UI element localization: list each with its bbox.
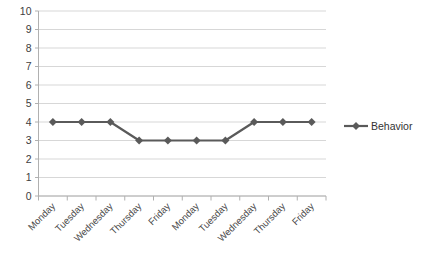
x-tick-label: Thursday (252, 200, 288, 236)
series-data-point (49, 118, 57, 126)
y-tick-label: 4 (26, 116, 32, 128)
x-tick-labels-group: MondayTuesdayWednesdayThursdayFridayMond… (26, 200, 317, 243)
line-chart: 012345678910 MondayTuesdayWednesdayThurs… (0, 0, 427, 259)
y-tick-label: 10 (20, 5, 32, 17)
gridlines-group (39, 11, 327, 196)
series-data-point (164, 137, 172, 145)
x-tick-label: Thursday (108, 200, 144, 236)
x-tick-label: Friday (146, 200, 173, 227)
x-axis-group (39, 196, 327, 201)
y-axis-group (35, 11, 39, 196)
y-tick-label: 9 (26, 23, 32, 35)
series-data-point (193, 137, 201, 145)
y-tick-labels-group: 012345678910 (20, 5, 32, 202)
y-tick-label: 6 (26, 79, 32, 91)
y-tick-label: 7 (26, 60, 32, 72)
y-tick-label: 0 (26, 190, 32, 202)
x-tick-label: Monday (169, 200, 201, 232)
legend-label: Behavior (371, 120, 413, 132)
series-data-point (78, 118, 86, 126)
y-tick-label: 3 (26, 134, 32, 146)
x-tick-label: Friday (290, 200, 317, 227)
x-tick-label: Monday (26, 200, 58, 232)
legend-marker (352, 122, 360, 130)
y-tick-label: 2 (26, 153, 32, 165)
series-line (53, 122, 312, 141)
series-data-point (308, 118, 316, 126)
y-tick-label: 8 (26, 42, 32, 54)
y-tick-label: 5 (26, 97, 32, 109)
series-data-point (279, 118, 287, 126)
y-tick-label: 1 (26, 171, 32, 183)
chart-container: 012345678910 MondayTuesdayWednesdayThurs… (0, 0, 427, 259)
legend-group: Behavior (344, 120, 413, 132)
